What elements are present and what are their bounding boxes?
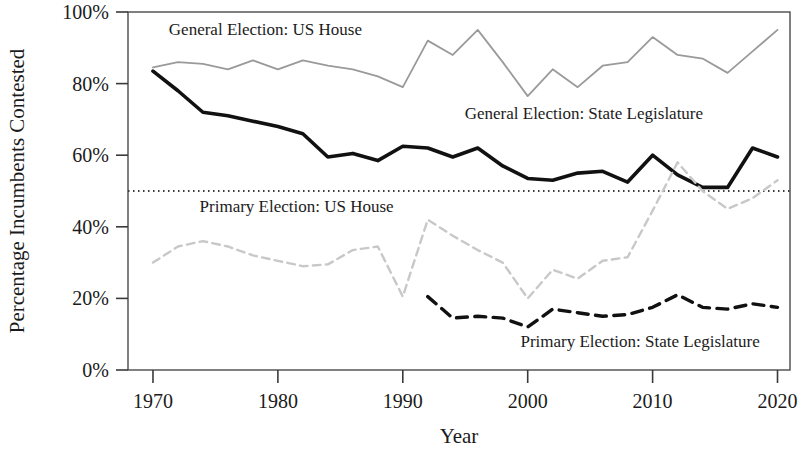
y-tick-label: 80%: [72, 73, 109, 95]
x-tick-label: 1970: [133, 390, 173, 412]
x-axis-title: Year: [440, 424, 479, 448]
chart-figure: 0%20%40%60%80%100% 197019801990200020102…: [0, 0, 805, 451]
y-tick-label: 40%: [72, 216, 109, 238]
x-tick-label: 2000: [508, 390, 548, 412]
y-axis-title: Percentage Incumbents Contested: [5, 48, 29, 333]
line-chart: 0%20%40%60%80%100% 197019801990200020102…: [0, 0, 805, 451]
x-tick-label: 1980: [258, 390, 298, 412]
label-primary-state-legislature: Primary Election: State Legislature: [520, 332, 759, 351]
label-primary-us-house: Primary Election: US House: [200, 197, 394, 216]
y-tick-label: 60%: [72, 144, 109, 166]
x-tick-label: 1990: [383, 390, 423, 412]
x-axis: 197019801990200020102020: [133, 370, 798, 412]
y-axis: 0%20%40%60%80%100%: [62, 1, 128, 381]
label-general-us-house: General Election: US House: [169, 20, 362, 39]
y-tick-label: 20%: [72, 287, 109, 309]
y-tick-label: 100%: [62, 1, 109, 23]
x-tick-label: 2020: [758, 390, 798, 412]
label-general-state-legislature: General Election: State Legislature: [465, 104, 703, 123]
x-tick-label: 2010: [633, 390, 673, 412]
y-tick-label: 0%: [82, 359, 109, 381]
